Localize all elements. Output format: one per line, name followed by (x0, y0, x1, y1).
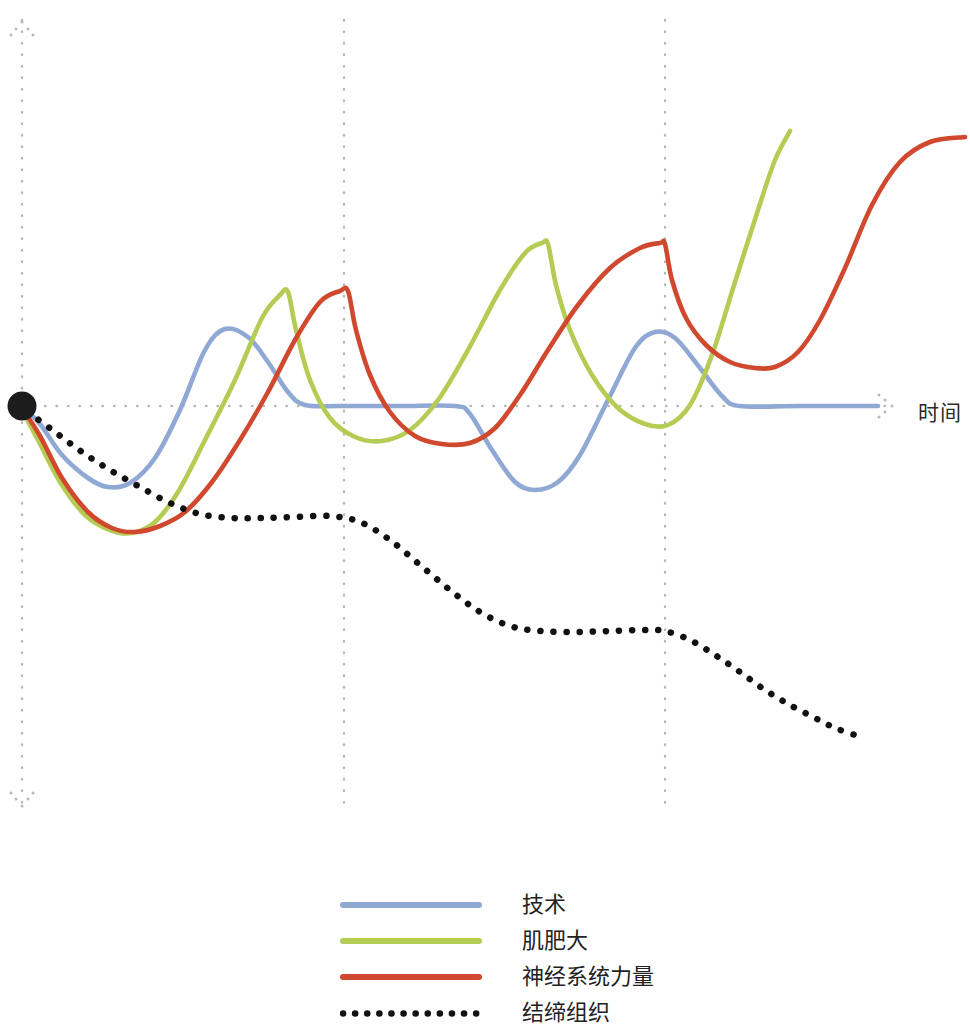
legend-label-3: 神经系统力量 (522, 966, 654, 988)
x-axis-label: 时间 (918, 396, 961, 426)
legend-swatch-3 (340, 974, 482, 980)
arrow-dot (27, 28, 30, 31)
arrow-dot (878, 416, 881, 419)
arrow-dot (884, 399, 887, 402)
origin-marker (8, 392, 37, 421)
chart-plot-area (0, 0, 970, 870)
series-line-hypertrophy (22, 131, 790, 534)
arrow-dot (878, 394, 881, 397)
y-axis-arrow-down (10, 792, 35, 808)
legend-label-1: 技术 (522, 894, 566, 916)
arrow-dot (884, 411, 887, 414)
arrow-dot (10, 34, 13, 37)
series-line-neural-strength (22, 137, 965, 532)
chart-svg (0, 0, 970, 870)
legend-item-3[interactable]: 神经系统力量 (340, 960, 760, 994)
legend-label-2: 肌肥大 (522, 930, 588, 952)
arrow-dot (891, 405, 894, 408)
legend-swatch-4 (340, 1010, 482, 1017)
arrow-dot (32, 792, 35, 795)
series-layer (22, 131, 965, 735)
arrow-dot (27, 798, 30, 801)
arrow-dot (32, 34, 35, 37)
legend-label-4: 结缔组织 (522, 1002, 610, 1024)
arrow-dot (21, 805, 24, 808)
arrow-dot (10, 792, 13, 795)
legend-item-2[interactable]: 肌肥大 (340, 924, 760, 958)
arrow-dot (15, 28, 18, 31)
arrow-dot (15, 798, 18, 801)
legend-swatch-1 (340, 902, 482, 908)
legend-swatch-2 (340, 938, 482, 944)
arrow-dot (21, 21, 24, 24)
y-axis-arrow-up (10, 21, 35, 37)
legend-item-4[interactable]: 结缔组织 (340, 996, 760, 1027)
origin-dot (8, 392, 37, 421)
chart-page: 时间 技术肌肥大神经系统力量结缔组织 (0, 0, 970, 1027)
series-line-technique (22, 328, 878, 490)
chart-legend: 技术肌肥大神经系统力量结缔组织 (340, 888, 760, 1027)
legend-item-1[interactable]: 技术 (340, 888, 760, 922)
